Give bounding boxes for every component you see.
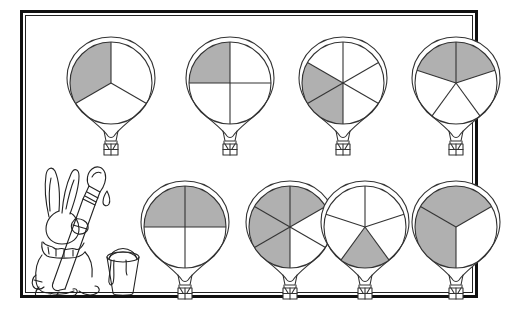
balloon-shaded-sector: [189, 42, 230, 83]
hot-air-balloon[interactable]: [401, 31, 505, 159]
balloon-shaded-sector: [185, 186, 226, 227]
hot-air-balloon[interactable]: [175, 31, 285, 159]
rabbit-painter-illustration: [29, 159, 141, 295]
worksheet-frame: [20, 10, 478, 298]
balloon-shaded-sector: [144, 186, 185, 227]
hot-air-balloon[interactable]: [401, 175, 505, 303]
hot-air-balloon[interactable]: [130, 175, 240, 303]
hot-air-balloon[interactable]: [288, 31, 398, 159]
hot-air-balloon[interactable]: [56, 31, 166, 159]
